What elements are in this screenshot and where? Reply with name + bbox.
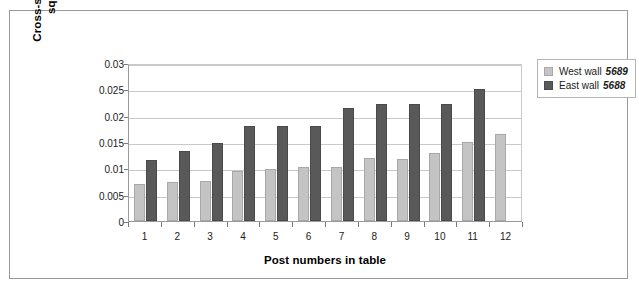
y-axis-tick-label: 0.005 <box>64 190 124 201</box>
x-axis-tick-mark <box>194 222 195 227</box>
y-axis-tick-label: 0 <box>64 217 124 228</box>
x-axis-tick-label: 7 <box>326 231 356 242</box>
bar-east-wall[interactable] <box>146 160 157 221</box>
x-axis-tick-mark <box>227 222 228 227</box>
y-axis-tick-label: 0.025 <box>64 85 124 96</box>
bar-east-wall[interactable] <box>474 89 485 221</box>
bar-west-wall[interactable] <box>397 159 408 221</box>
bar-west-wall[interactable] <box>265 169 276 221</box>
bar-group <box>392 65 425 221</box>
x-axis-tick-mark <box>489 222 490 227</box>
bar-east-wall[interactable] <box>343 108 354 221</box>
bar-east-wall[interactable] <box>310 126 321 221</box>
legend-swatch-east-wall-icon <box>544 81 553 90</box>
chart-legend: West wall 5689 East wall 5688 <box>537 59 636 98</box>
bar-group <box>359 65 392 221</box>
bar-west-wall[interactable] <box>462 142 473 221</box>
y-axis-tick-label: 0.03 <box>64 59 124 70</box>
bar-group <box>425 65 458 221</box>
legend-label-east-wall: East wall <box>559 80 599 91</box>
x-axis-tick-label: 11 <box>458 231 488 242</box>
x-axis-tick-mark <box>522 222 523 227</box>
x-axis-tick-label: 9 <box>392 231 422 242</box>
x-axis-tick-label: 2 <box>162 231 192 242</box>
bar-west-wall[interactable] <box>364 158 375 221</box>
bar-west-wall[interactable] <box>232 171 243 221</box>
y-axis-title: Cross-sectional areas in square metres <box>24 0 64 49</box>
plot-area <box>128 64 522 222</box>
x-axis-tick-label: 6 <box>294 231 324 242</box>
bar-group <box>228 65 261 221</box>
bar-group <box>260 65 293 221</box>
bar-group <box>457 65 490 221</box>
bar-west-wall[interactable] <box>298 167 309 221</box>
y-axis-tick-label: 0.01 <box>64 164 124 175</box>
x-axis-tick-mark <box>259 222 260 227</box>
x-axis-tick-label: 5 <box>261 231 291 242</box>
x-axis-tick-label: 10 <box>425 231 455 242</box>
bar-group <box>326 65 359 221</box>
x-axis-tick-label: 3 <box>195 231 225 242</box>
x-axis-tick-mark <box>128 222 129 227</box>
legend-item-east-wall[interactable]: East wall 5688 <box>544 78 628 92</box>
legend-code-east-wall: 5688 <box>603 80 625 91</box>
bar-group <box>293 65 326 221</box>
bar-group <box>490 65 523 221</box>
legend-item-west-wall[interactable]: West wall 5689 <box>544 64 628 78</box>
bar-east-wall[interactable] <box>409 104 420 221</box>
x-axis-title: Post numbers in table <box>128 254 522 266</box>
x-axis-tick-mark <box>424 222 425 227</box>
bar-east-wall[interactable] <box>179 151 190 221</box>
y-axis-ticks: 00.0050.010.0150.020.0250.03 <box>60 64 124 222</box>
bar-west-wall[interactable] <box>331 167 342 221</box>
x-axis-tick-mark <box>325 222 326 227</box>
x-axis-tick-mark <box>391 222 392 227</box>
bar-west-wall[interactable] <box>495 134 506 221</box>
bars-layer <box>129 65 521 221</box>
bar-east-wall[interactable] <box>244 126 255 221</box>
x-axis-tick-label: 12 <box>491 231 521 242</box>
legend-swatch-west-wall-icon <box>544 67 553 76</box>
x-axis-tick-label: 4 <box>228 231 258 242</box>
x-axis-tick-mark <box>161 222 162 227</box>
legend-label-west-wall: West wall <box>559 66 602 77</box>
bar-east-wall[interactable] <box>277 126 288 221</box>
y-axis-tick-label: 0.015 <box>64 138 124 149</box>
x-axis-tick-label: 1 <box>129 231 159 242</box>
bar-east-wall[interactable] <box>212 143 223 221</box>
bar-group <box>162 65 195 221</box>
y-axis-title-line-1: Cross-sectional areas in <box>30 0 44 42</box>
bar-west-wall[interactable] <box>167 182 178 222</box>
bar-west-wall[interactable] <box>429 153 440 221</box>
bar-group <box>129 65 162 221</box>
y-axis-title-line-2: square metres <box>44 0 58 42</box>
bar-east-wall[interactable] <box>376 104 387 221</box>
bar-east-wall[interactable] <box>441 104 452 221</box>
y-axis-tick-label: 0.02 <box>64 111 124 122</box>
x-axis-tick-mark <box>292 222 293 227</box>
x-axis-tick-label: 8 <box>359 231 389 242</box>
bar-group <box>195 65 228 221</box>
chart-frame: Cross-sectional areas in square metres 0… <box>9 10 628 279</box>
bar-west-wall[interactable] <box>134 184 145 221</box>
bar-west-wall[interactable] <box>200 181 211 221</box>
legend-code-west-wall: 5689 <box>606 66 628 77</box>
x-axis-tick-mark <box>358 222 359 227</box>
x-axis-tick-mark <box>456 222 457 227</box>
